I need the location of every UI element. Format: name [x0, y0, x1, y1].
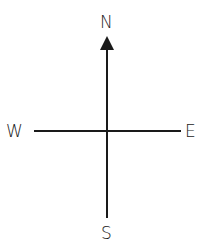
north-arrow-icon — [100, 36, 114, 50]
east-label: E — [185, 123, 196, 140]
west-label: W — [6, 123, 23, 140]
south-label: S — [101, 225, 112, 242]
north-label: N — [100, 14, 113, 31]
compass-diagram: N W E S — [0, 0, 218, 252]
